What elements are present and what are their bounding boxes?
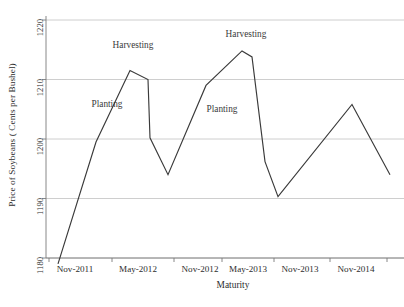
y-axis-title-text: Price of Soybeans ( Cents per Bushel) — [7, 63, 17, 207]
annotation-harvesting-0: Harvesting — [88, 40, 178, 50]
annotation-planting-1: Planting — [62, 99, 152, 109]
y-tick-label-1180: 1180 — [35, 257, 45, 297]
y-tick-label-1220: 1220 — [35, 19, 45, 59]
x-axis — [46, 258, 404, 262]
annotation-harvesting-3: Harvesting — [201, 29, 291, 39]
soybean-price-line-chart: Price of Soybeans ( Cents per Bushel) 11… — [0, 0, 404, 307]
y-tick-label-1210: 1210 — [35, 79, 45, 119]
x-tick-label-1: May-2012 — [103, 264, 173, 274]
annotation-planting-2: Planting — [177, 104, 267, 114]
data-series — [58, 51, 390, 264]
x-tick-label-0: Nov-2011 — [40, 264, 110, 274]
y-tick-label-1190: 1190 — [35, 198, 45, 238]
x-axis-title: Maturity — [173, 280, 293, 290]
gridlines — [46, 20, 404, 258]
y-tick-label-1200: 1200 — [35, 138, 45, 178]
y-axis-title: Price of Soybeans ( Cents per Bushel) — [0, 0, 24, 270]
series-line-0 — [58, 51, 390, 264]
plot-area — [0, 0, 404, 307]
x-tick-label-5: Nov-2014 — [321, 264, 391, 274]
